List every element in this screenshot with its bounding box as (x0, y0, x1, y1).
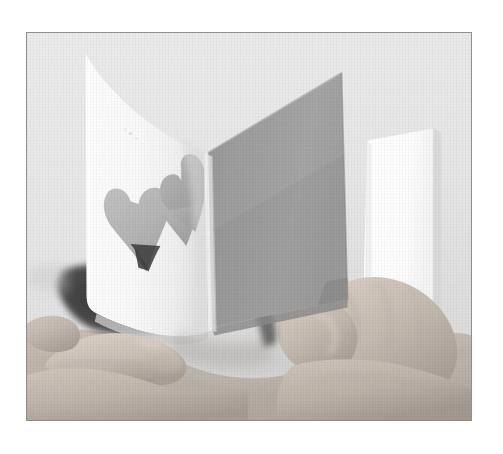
screenshot-root: Two hands hold a white folded card; two … (0, 0, 503, 454)
photo-artwork (27, 33, 471, 420)
photo-frame: Two hands hold a white folded card; two … (26, 32, 472, 421)
photograph (27, 33, 471, 420)
